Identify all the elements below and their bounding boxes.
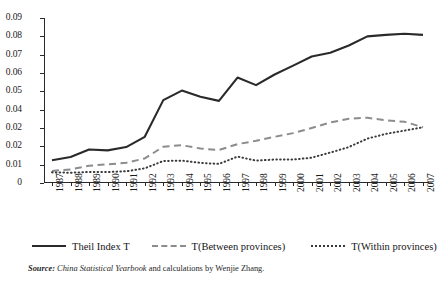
legend-swatch-solid-icon — [32, 240, 66, 252]
y-tick-label: 0.02 — [6, 123, 22, 133]
legend-label-within-provinces: T(Within provinces) — [351, 241, 437, 252]
series-line-theil-index-t — [52, 34, 423, 161]
chart-legend: Theil Index T T(Between provinces) T(Wit… — [32, 238, 422, 254]
y-tick-label: 0.02 — [6, 141, 22, 151]
source-publication: China Statistical Yearbook — [55, 264, 147, 273]
source-attribution: and calculations by Wenjie Zhang. — [147, 264, 265, 273]
legend-label-theil-index-t: Theil Index T — [72, 241, 130, 252]
y-tick-label: 0.01 — [6, 160, 22, 170]
series-line-t-between-provinces — [52, 118, 423, 171]
legend-swatch-dotted-icon — [311, 240, 345, 252]
y-tick-mark — [40, 183, 44, 184]
y-tick-label: 0.07 — [6, 50, 22, 60]
legend-item-within-provinces: T(Within provinces) — [311, 240, 437, 252]
legend-label-between-provinces: T(Between provinces) — [192, 241, 286, 252]
plot-area: 0.090.080.070.060.050.040.020.020.010 19… — [44, 18, 429, 183]
y-tick-label: 0.08 — [6, 31, 22, 41]
source-note: Source: China Statistical Yearbook and c… — [28, 264, 264, 274]
y-tick-label: 0 — [17, 178, 22, 188]
legend-item-between-provinces: T(Between provinces) — [152, 240, 286, 252]
source-label: Source: — [28, 264, 55, 273]
y-tick-label: 0.09 — [6, 13, 22, 23]
legend-item-theil-index-t: Theil Index T — [32, 240, 130, 252]
y-tick-label: 0.06 — [6, 68, 22, 78]
y-tick-label: 0.05 — [6, 86, 22, 96]
y-tick-label: 0.04 — [6, 105, 22, 115]
series-lines — [44, 18, 429, 183]
theil-index-figure: 0.090.080.070.060.050.040.020.020.010 19… — [0, 0, 445, 282]
legend-swatch-dashed-icon — [152, 240, 186, 252]
